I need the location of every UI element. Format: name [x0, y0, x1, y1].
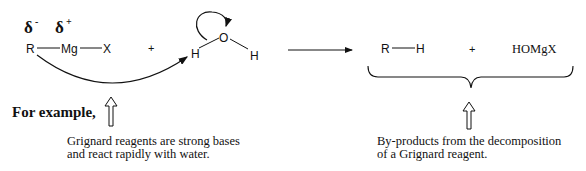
- delta-minus: δ: [24, 18, 33, 37]
- atom-x: X: [103, 42, 111, 56]
- atom-h-right: H: [250, 49, 259, 63]
- product-plus-sign: +: [469, 43, 475, 55]
- product-homgx: HOMgX: [512, 42, 556, 56]
- bond-h-o: [199, 38, 219, 48]
- caption-right: By-products from the decomposition of a …: [377, 135, 561, 161]
- product-atom-r: R: [381, 42, 390, 56]
- caption-left: Grignard reagents are strong bases and r…: [67, 135, 240, 161]
- product-atom-h: H: [416, 42, 425, 56]
- curved-arrow-icon: [37, 55, 187, 83]
- atom-o: O: [219, 31, 228, 45]
- example-label: For example,: [12, 104, 96, 120]
- grouping-brace: [368, 66, 573, 88]
- delta-plus: δ: [55, 18, 64, 37]
- hollow-up-arrow-icon: [463, 102, 475, 129]
- atom-mg: Mg: [61, 42, 78, 56]
- atom-r: R: [26, 42, 35, 56]
- atom-h-left: H: [191, 47, 200, 61]
- delta-minus-sign: -: [35, 16, 38, 27]
- delta-plus-sign: +: [66, 16, 72, 27]
- plus-sign: +: [148, 42, 154, 54]
- bond-o-h: [230, 39, 248, 49]
- caption-right-line2: of a Grignard reagent.: [377, 148, 561, 161]
- caption-left-line2: and react rapidly with water.: [67, 148, 240, 161]
- hollow-up-arrow-icon: [105, 97, 117, 126]
